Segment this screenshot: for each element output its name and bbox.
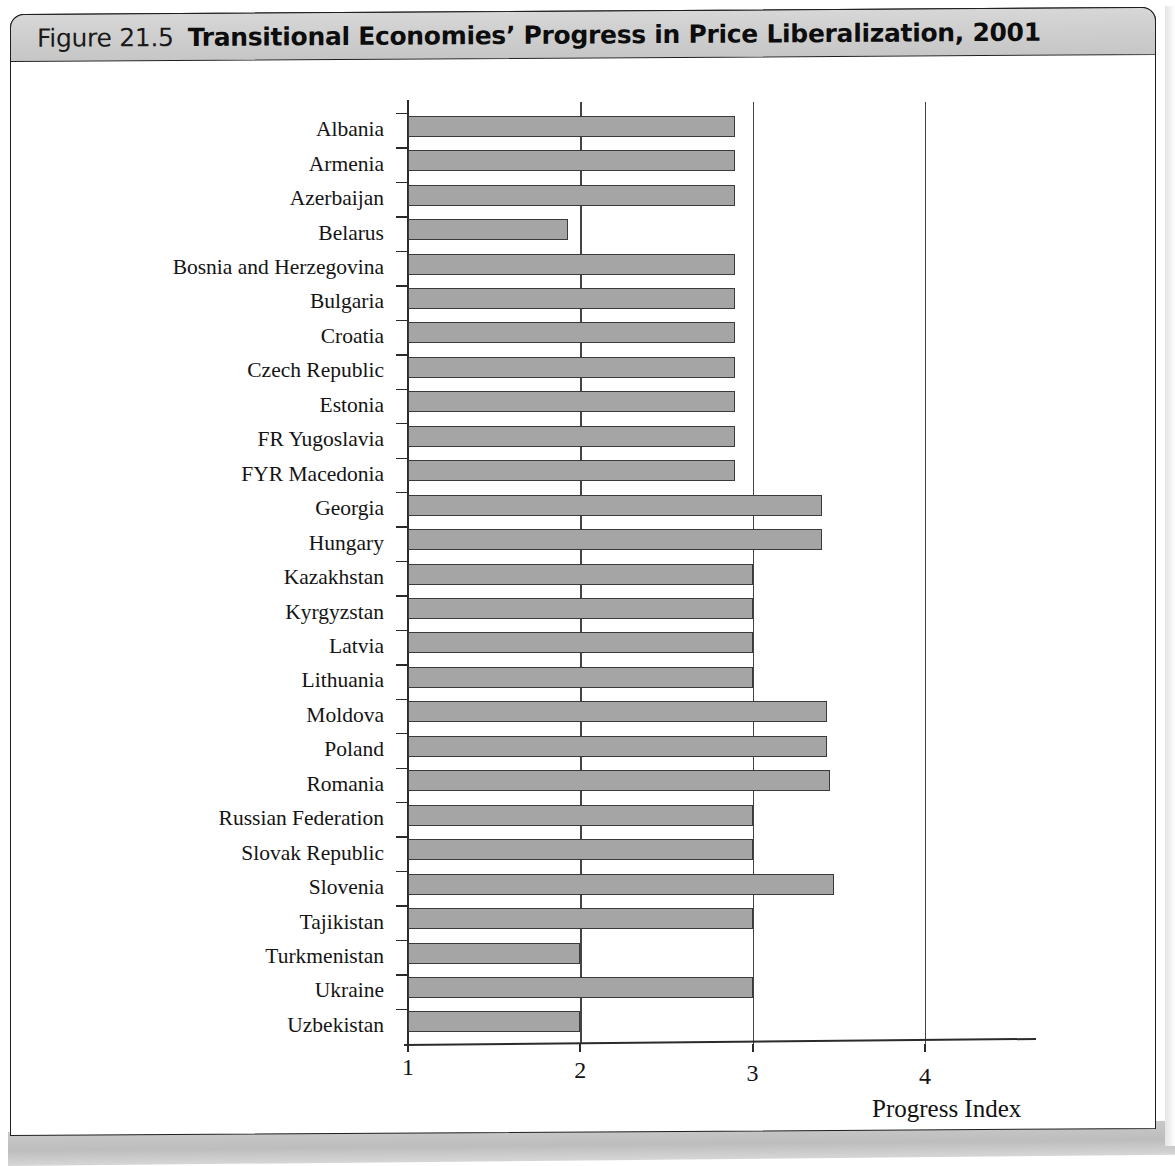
category-label: Bosnia and Herzegovina (0, 257, 398, 279)
chart-plot-area: AlbaniaArmeniaAzerbaijanBelarusBosnia an… (0, 0, 1175, 1166)
y-axis-tick (396, 113, 409, 114)
x-tick-label: 1 (386, 1054, 430, 1081)
gridline-x-3 (753, 102, 755, 1044)
category-label: Hungary (0, 533, 398, 555)
category-label: Croatia (0, 326, 398, 348)
y-axis-tick (396, 320, 409, 321)
bar-uzbekistan (408, 1011, 580, 1032)
category-label: Slovenia (0, 877, 398, 899)
y-axis-tick (396, 664, 409, 665)
category-label: Kazakhstan (0, 567, 398, 589)
bar-turkmenistan (408, 943, 580, 964)
bar-slovak-republic (408, 839, 753, 860)
y-axis-tick (396, 285, 409, 286)
y-axis-tick (396, 871, 409, 872)
bar-slovenia (408, 874, 834, 895)
category-label: Georgia (0, 498, 398, 520)
category-label: Belarus (0, 223, 398, 245)
y-axis-tick (396, 595, 409, 596)
bar-romania (408, 770, 830, 791)
y-axis-tick (396, 526, 409, 527)
bar-bulgaria (408, 288, 735, 309)
category-label: Tajikistan (0, 912, 398, 934)
category-label: Ukraine (0, 980, 398, 1002)
y-axis-tick (396, 630, 409, 631)
bar-ukraine (408, 977, 753, 998)
y-axis-tick (396, 768, 409, 769)
x-tick-label: 3 (731, 1060, 775, 1087)
y-axis-tick (396, 905, 409, 906)
category-label: Slovak Republic (0, 843, 398, 865)
y-axis-tick (396, 1009, 409, 1010)
y-axis-tick (396, 733, 409, 734)
y-axis-tick (396, 147, 409, 148)
bar-belarus (408, 219, 568, 240)
y-axis-tick (396, 802, 409, 803)
category-label: Albania (0, 119, 398, 141)
y-axis-tick (396, 561, 409, 562)
x-axis-tick (752, 1044, 754, 1052)
bar-hungary (408, 529, 822, 550)
y-axis-tick (396, 699, 409, 700)
scanned-page: Figure 21.5Transitional Economies’ Progr… (0, 0, 1175, 1166)
bar-fyr-macedonia (408, 460, 735, 481)
y-axis-tick (396, 492, 409, 493)
bar-estonia (408, 391, 735, 412)
x-tick-label: 2 (558, 1057, 602, 1084)
category-label: Romania (0, 774, 398, 796)
bar-fr-yugoslavia (408, 426, 735, 447)
y-axis-tick (396, 389, 409, 390)
category-label: Armenia (0, 154, 398, 176)
x-tick-label: 4 (903, 1063, 947, 1090)
bar-kazakhstan (408, 564, 753, 585)
bar-bosnia-and-herzegovina (408, 254, 735, 275)
bar-czech-republic (408, 357, 735, 378)
bar-georgia (408, 495, 822, 516)
bar-croatia (408, 322, 735, 343)
x-axis-tick (579, 1044, 581, 1052)
category-label: FR Yugoslavia (0, 429, 398, 451)
category-label: Moldova (0, 705, 398, 727)
category-label: Bulgaria (0, 291, 398, 313)
bar-moldova (408, 701, 827, 722)
category-label: Turkmenistan (0, 946, 398, 968)
y-axis-tick (396, 182, 409, 183)
y-axis-tick (396, 251, 409, 252)
category-label: Azerbaijan (0, 188, 398, 210)
bar-poland (408, 736, 827, 757)
category-label: Czech Republic (0, 360, 398, 382)
category-label: Uzbekistan (0, 1015, 398, 1037)
x-axis-title: Progress Index (872, 1095, 1021, 1123)
bar-tajikistan (408, 908, 753, 929)
bar-albania (408, 116, 735, 137)
bar-russian-federation (408, 805, 753, 826)
y-axis-tick (396, 836, 409, 837)
category-label: Russian Federation (0, 808, 398, 830)
bar-azerbaijan (408, 185, 735, 206)
y-axis-tick (396, 354, 409, 355)
category-label: Latvia (0, 636, 398, 658)
gridline-x-4 (925, 102, 927, 1044)
y-axis-tick (396, 458, 409, 459)
bar-armenia (408, 150, 735, 171)
category-label: Kyrgyzstan (0, 602, 398, 624)
category-label: Lithuania (0, 670, 398, 692)
y-axis-tick (396, 216, 409, 217)
x-axis-tick (924, 1044, 926, 1052)
category-label: Poland (0, 739, 398, 761)
y-axis-tick (396, 974, 409, 975)
bar-latvia (408, 632, 753, 653)
bar-kyrgyzstan (408, 598, 753, 619)
bar-lithuania (408, 667, 753, 688)
x-axis-tick (407, 1044, 409, 1052)
category-label: FYR Macedonia (0, 464, 398, 486)
category-label: Estonia (0, 395, 398, 417)
x-axis-line (404, 1038, 1036, 1046)
y-axis-tick (396, 423, 409, 424)
y-axis-tick (396, 940, 409, 941)
